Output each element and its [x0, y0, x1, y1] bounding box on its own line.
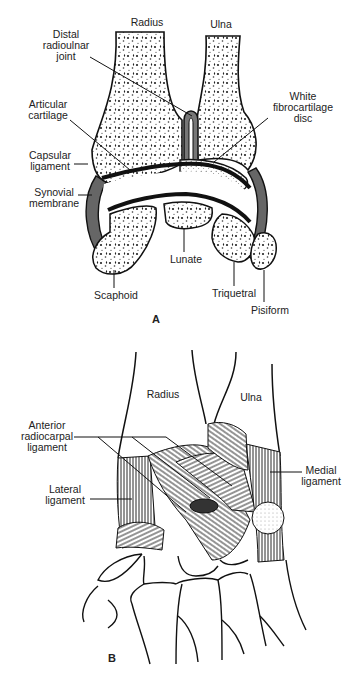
panel-letter-b: B [108, 652, 116, 664]
label-scaphoid: Scaphoid [88, 290, 144, 301]
label-ulna-a: Ulna [206, 19, 236, 30]
label-lunate: Lunate [166, 254, 206, 265]
label-ulna-b: Ulna [236, 392, 266, 403]
label-radius-a: Radius [122, 17, 172, 28]
label-capsular-ligament: Capsular ligament [24, 150, 76, 172]
label-anterior-radiocarpal-ligament: Anterior radiocarpal ligament [20, 420, 74, 453]
panel-letter-a: A [152, 313, 160, 325]
label-distal-radioulnar-joint: Distal radioulnar joint [36, 29, 96, 62]
label-pisiform: Pisiform [248, 305, 292, 316]
label-radius-b: Radius [142, 389, 184, 400]
label-white-fibrocartilage-disc: White fibrocartilage disc [262, 91, 344, 124]
label-synovial-membrane: Synovial membrane [26, 187, 82, 209]
label-articular-cartilage: Articular cartilage [20, 99, 76, 121]
label-lateral-ligament: Lateral ligament [40, 484, 90, 506]
label-medial-ligament: Medial ligament [298, 465, 344, 487]
wrist-joint-figure: Radius Ulna Distal radioulnar joint Arti… [0, 0, 351, 679]
label-triquetral: Triquetral [206, 288, 262, 299]
